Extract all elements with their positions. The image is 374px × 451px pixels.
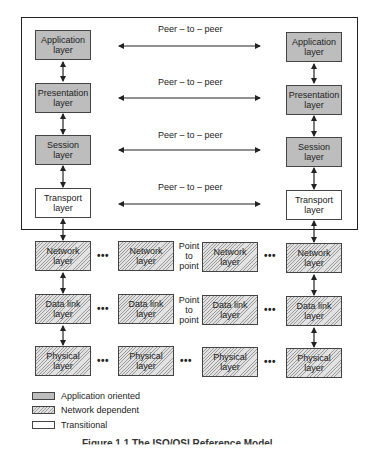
legend-swatch-application — [32, 392, 55, 400]
mid1-physical-layer: Physicallayer — [118, 346, 174, 376]
ellipsis-dots: ••• — [97, 250, 109, 261]
legend-swatch-transitional — [32, 421, 55, 429]
left-session-layer: Sessionlayer — [35, 135, 91, 165]
ellipsis-dots: ••• — [264, 304, 276, 315]
right-network-layer: Networklayer — [286, 243, 342, 273]
peer-label-presentation: Peer – to – peer — [158, 77, 223, 87]
peer-label-application: Peer – to – peer — [158, 24, 223, 34]
point-to-point-network: Pointtopoint — [174, 241, 204, 271]
right-transport-layer: Transportlayer — [286, 190, 342, 220]
right-datalink-layer: Data linklayer — [286, 296, 342, 326]
peer-label-transport: Peer – to – peer — [158, 182, 223, 192]
legend-swatch-network — [32, 406, 55, 414]
right-physical-layer: Physicallayer — [286, 348, 342, 378]
ellipsis-dots: ••• — [264, 356, 276, 367]
connector-arrows — [0, 0, 374, 451]
left-application-layer: Applicationlayer — [35, 30, 91, 60]
peer-label-session: Peer – to – peer — [158, 130, 223, 140]
point-to-point-datalink: Pointtopoint — [174, 295, 204, 325]
left-network-layer: Networklayer — [35, 241, 91, 271]
ellipsis-dots: ••• — [180, 355, 192, 366]
legend-label-transitional: Transitional — [61, 420, 107, 430]
mid2-datalink-layer: Data linklayer — [202, 295, 258, 325]
ellipsis-dots: ••• — [264, 250, 276, 261]
left-transport-layer: Transportlayer — [35, 188, 91, 218]
mid2-network-layer: Networklayer — [202, 242, 258, 272]
legend-label-network: Network dependent — [61, 405, 139, 415]
mid1-network-layer: Networklayer — [118, 241, 174, 271]
left-physical-layer: Physicallayer — [35, 346, 91, 376]
ellipsis-dots: ••• — [97, 355, 109, 366]
left-datalink-layer: Data linklayer — [35, 294, 91, 324]
right-session-layer: Sessionlayer — [286, 137, 342, 167]
legend-label-application: Application oriented — [61, 391, 140, 401]
mid1-datalink-layer: Data linklayer — [118, 294, 174, 324]
right-application-layer: Applicationlayer — [286, 32, 342, 62]
left-presentation-layer: Presentationlayer — [35, 83, 91, 113]
mid2-physical-layer: Physicallayer — [202, 347, 258, 377]
right-presentation-layer: Presentationlayer — [286, 85, 342, 115]
ellipsis-dots: ••• — [97, 303, 109, 314]
